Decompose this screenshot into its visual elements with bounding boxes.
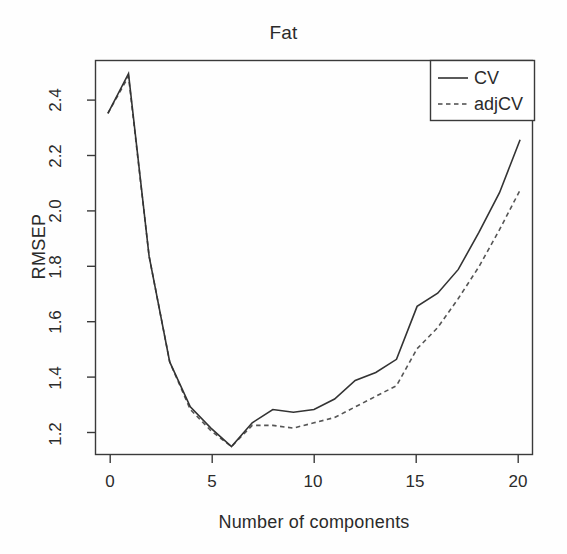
y-axis-ticks — [87, 100, 95, 432]
x-axis-ticks — [110, 455, 518, 463]
chart-figure: Fat RMSEP Number of components 1.2 1.4 1… — [0, 0, 567, 554]
legend-label-adjcv: adjCV — [474, 94, 523, 115]
series-line-adjcv — [108, 76, 520, 446]
legend-label-cv: CV — [474, 68, 499, 89]
series-line-cv — [108, 74, 520, 447]
